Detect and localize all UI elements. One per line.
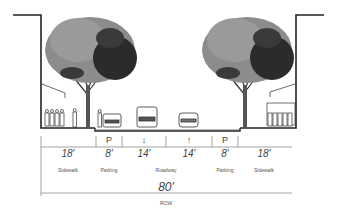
parking-symbol-right: P [222,135,228,145]
southbound-arrow-icon: ↓ [142,135,147,145]
parking-symbol-left: P [106,135,112,145]
width-sidewalk-left: 18' [61,148,74,159]
width-parking-right: 8' [221,148,228,159]
vehicle-northbound-icon [179,113,198,127]
parked-car-left-icon [103,114,121,127]
label-row: ROW [160,200,172,206]
total-width: 80' [158,180,174,194]
width-parking-left: 8' [105,148,112,159]
pedestrians-left-icon [45,109,102,128]
label-parking-right: Parking [217,167,234,173]
width-roadway-right: 14' [182,148,195,159]
northbound-arrow-icon: ↑ [187,135,192,145]
vehicle-southbound-icon [137,107,157,127]
pedestrians-right-icon [267,103,295,126]
label-sidewalk-right: Sidewalk [254,167,274,173]
width-sidewalk-right: 18' [257,148,270,159]
width-roadway-left: 14' [137,148,150,159]
label-sidewalk-left: Sidewalk [58,167,78,173]
label-roadway: Roadway [156,167,177,173]
street-ground [95,128,240,131]
label-parking-left: Parking [101,167,118,173]
